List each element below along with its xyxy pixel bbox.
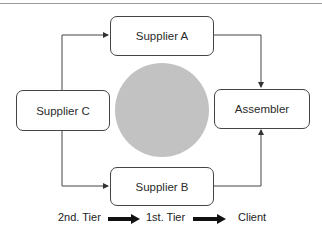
legend-tier2: 2nd. Tier [58, 211, 101, 223]
node-supplier-b[interactable]: Supplier B [110, 167, 214, 206]
center-circle [115, 63, 209, 157]
edge-a-to-assembler [213, 35, 261, 87]
node-label: Assembler [235, 103, 289, 115]
node-label: Supplier A [136, 30, 188, 42]
edge-b-to-assembler [213, 130, 261, 186]
node-supplier-c[interactable]: Supplier C [16, 90, 110, 131]
legend-client: Client [238, 211, 266, 223]
node-label: Supplier C [36, 105, 90, 117]
node-assembler[interactable]: Assembler [214, 89, 310, 129]
tier-legend: 2nd. Tier 1st. Tier Client [0, 211, 322, 227]
edge-c-to-a [62, 35, 108, 90]
edge-c-to-b [62, 130, 108, 186]
node-label: Supplier B [135, 181, 188, 193]
legend-tier1: 1st. Tier [146, 211, 185, 223]
node-supplier-a[interactable]: Supplier A [110, 16, 214, 56]
